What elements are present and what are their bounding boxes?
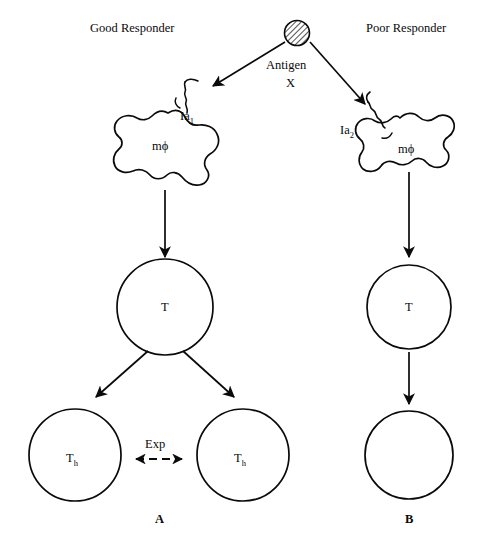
good-macrophage-label: mϕ: [152, 140, 168, 153]
th-left-subscript: h: [74, 458, 78, 468]
good-responder-header: Good Responder: [90, 22, 174, 35]
exp-label: Exp: [145, 438, 165, 451]
ia1-base: Ia: [180, 109, 190, 123]
ia1-label: Ia1: [180, 110, 194, 125]
th-cell-right-label: Th: [234, 452, 246, 467]
ia2-subscript: 2: [350, 130, 354, 140]
panel-label-b: B: [405, 513, 413, 526]
arrow-good-tcell-to-th-right: [183, 351, 234, 397]
poor-tcell-label: T: [405, 301, 413, 314]
good-responder-macrophage: [114, 79, 219, 185]
panel-label-a: A: [155, 513, 164, 526]
antigen-particle: [285, 21, 310, 46]
poor-responder-macrophage: [356, 92, 455, 171]
figure-canvas: Good Responder Poor Responder Antigen X …: [0, 0, 484, 549]
ia1-subscript: 1: [190, 116, 194, 126]
ia2-label: Ia2: [340, 124, 354, 139]
poor-macrophage-label: mϕ: [398, 143, 414, 156]
th-left-base: T: [66, 451, 74, 465]
arrow-antigen-to-poor-macrophage: [310, 42, 365, 104]
poor-progeny-cell: [365, 411, 453, 499]
poor-responder-header: Poor Responder: [366, 22, 446, 35]
th-cell-left-label: Th: [66, 452, 78, 467]
th-right-base: T: [234, 451, 242, 465]
ia2-base: Ia: [340, 123, 350, 137]
th-right-subscript: h: [242, 458, 246, 468]
antigen-label-x: X: [286, 77, 295, 90]
good-tcell-label: T: [161, 301, 169, 314]
arrow-good-tcell-to-th-left: [96, 351, 148, 397]
antigen-label-name: Antigen: [266, 59, 306, 72]
